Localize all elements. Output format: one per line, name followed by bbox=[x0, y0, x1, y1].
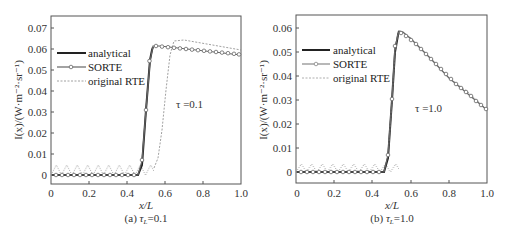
svg-text:0.02: 0.02 bbox=[28, 127, 47, 139]
svg-text:0.6: 0.6 bbox=[158, 187, 172, 199]
svg-text:0.2: 0.2 bbox=[82, 187, 96, 199]
sorte-markers bbox=[299, 31, 488, 174]
tau-annotation: τ =1.0 bbox=[415, 102, 443, 114]
panel-caption: (a) τL=0.1 bbox=[125, 212, 168, 226]
svg-text:1.0: 1.0 bbox=[234, 187, 248, 199]
svg-text:0.03: 0.03 bbox=[28, 106, 48, 118]
legend-label-analytical: analytical bbox=[333, 44, 376, 56]
svg-text:0: 0 bbox=[48, 187, 54, 199]
svg-text:0.05: 0.05 bbox=[273, 46, 293, 58]
y-axis-title: I(x)/(W·m⁻²·sr⁻¹) bbox=[12, 60, 25, 140]
svg-text:0.01: 0.01 bbox=[273, 142, 292, 154]
svg-text:0.8: 0.8 bbox=[442, 187, 456, 199]
sorte-markers bbox=[54, 44, 241, 177]
svg-text:0.03: 0.03 bbox=[273, 94, 293, 106]
svg-text:0.02: 0.02 bbox=[273, 118, 292, 130]
svg-text:0.4: 0.4 bbox=[365, 187, 379, 199]
chart-panel-a: 0.07 0.06 0.05 0.04 0.03 0.02 0.01 0 0 0… bbox=[12, 16, 248, 226]
svg-text:0.04: 0.04 bbox=[273, 70, 293, 82]
legend: analytical SORTE original RTE bbox=[57, 47, 145, 87]
series-original-rte bbox=[388, 31, 487, 155]
svg-text:0.06: 0.06 bbox=[28, 43, 48, 55]
x-axis-title: x/L bbox=[138, 199, 153, 211]
svg-text:0.07: 0.07 bbox=[28, 22, 48, 34]
svg-text:0.05: 0.05 bbox=[28, 64, 48, 76]
legend-label-original-rte: original RTE bbox=[88, 75, 145, 87]
chart-panel-b: 0.06 0.05 0.04 0.03 0.02 0.01 0 0 0.2 0.… bbox=[257, 15, 494, 226]
figure: 0.07 0.06 0.05 0.04 0.03 0.02 0.01 0 0 0… bbox=[0, 0, 510, 236]
tau-annotation: τ =0.1 bbox=[176, 98, 203, 110]
x-axis-labels: 0 0.2 0.4 0.6 0.8 1.0 bbox=[294, 187, 494, 199]
legend: analytical SORTE original RTE bbox=[302, 44, 390, 84]
y-axis-labels: 0.06 0.05 0.04 0.03 0.02 0.01 0 bbox=[273, 22, 293, 178]
legend-label-sorte: SORTE bbox=[88, 61, 122, 73]
svg-text:1.0: 1.0 bbox=[480, 187, 494, 199]
y-axis-title: I(x)/(W·m⁻²·sr⁻¹) bbox=[257, 60, 270, 140]
svg-text:0.01: 0.01 bbox=[28, 148, 47, 160]
svg-text:0.8: 0.8 bbox=[196, 187, 210, 199]
x-axis-title: x/L bbox=[384, 199, 399, 211]
svg-text:0: 0 bbox=[287, 166, 293, 178]
svg-text:0: 0 bbox=[294, 187, 300, 199]
svg-text:0.6: 0.6 bbox=[404, 187, 418, 199]
svg-text:0.4: 0.4 bbox=[120, 187, 134, 199]
svg-text:0.06: 0.06 bbox=[273, 22, 293, 34]
legend-label-analytical: analytical bbox=[88, 47, 131, 59]
legend-label-original-rte: original RTE bbox=[333, 72, 390, 84]
svg-text:0.2: 0.2 bbox=[327, 187, 341, 199]
svg-text:0.04: 0.04 bbox=[28, 85, 48, 97]
x-axis-labels: 0 0.2 0.4 0.6 0.8 1.0 bbox=[48, 187, 248, 199]
y-axis-labels: 0.07 0.06 0.05 0.04 0.03 0.02 0.01 0 bbox=[28, 22, 48, 181]
legend-label-sorte: SORTE bbox=[333, 58, 367, 70]
panel-caption: (b) τL=1.0 bbox=[370, 212, 414, 226]
svg-text:0: 0 bbox=[42, 169, 48, 181]
series-sorte bbox=[297, 31, 487, 172]
